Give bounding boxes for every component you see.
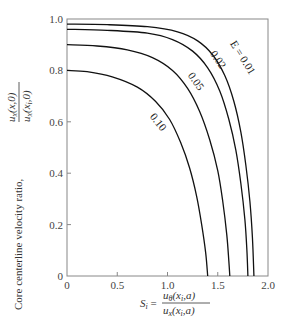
y-tick-label: 0.8 <box>49 64 63 76</box>
x-label-numerator: uθ(xi,a) <box>163 289 195 303</box>
curve-label: 0.02 <box>208 48 229 71</box>
y-axis-label-text: Core centerline velocity ratio, <box>12 178 24 310</box>
curve-label: E = 0.01 <box>228 38 258 76</box>
y-label-denominator: ux(xi,0) <box>20 90 34 122</box>
x-tick-label: 2.0 <box>261 279 275 291</box>
y-tick-label: 0.4 <box>49 167 63 179</box>
y-tick-label: 1.0 <box>49 13 63 25</box>
y-axis-label-fraction: ux(x,0) ux(xi,0) <box>5 82 34 122</box>
x-label-denominator: ux(xi,a) <box>163 304 195 318</box>
curve-label: 0.05 <box>186 70 207 93</box>
y-tick-label: 0.6 <box>49 116 63 128</box>
x-tick-label: 1.5 <box>211 279 225 291</box>
y-tick-label: 0.2 <box>49 219 63 231</box>
x-label-lhs: Si = <box>140 297 157 311</box>
chart: 00.51.01.52.000.20.40.60.81.0 E = 0.010.… <box>0 0 291 332</box>
curve-e-0-10 <box>67 70 208 276</box>
curve-e-0-05 <box>67 45 230 276</box>
x-tick-label: 0.5 <box>110 279 124 291</box>
y-axis-label: Core centerline velocity ratio, ux(x,0) … <box>5 82 34 310</box>
x-tick-label: 0 <box>64 279 70 291</box>
y-label-numerator: ux(x,0) <box>5 92 19 122</box>
y-tick-label: 0 <box>58 270 64 282</box>
x-axis-label: Si = uθ(xi,a) ux(xi,a) <box>140 289 210 318</box>
